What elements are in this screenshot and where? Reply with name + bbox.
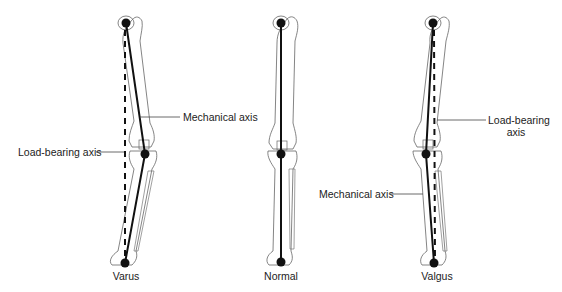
valgus-mechanical-axis-label: Mechanical axis [319, 188, 394, 200]
varus-ankle-center [121, 259, 130, 268]
normal-caption: Normal [261, 270, 301, 282]
normal-ankle-center [277, 258, 286, 267]
varus-caption: Varus [108, 270, 144, 282]
varus-mechanical-axis-label: Mechanical axis [183, 111, 258, 123]
normal-knee-center [277, 150, 286, 159]
normal-leg [267, 16, 298, 267]
valgus-load-bearing-axis [434, 30, 435, 262]
valgus-knee-center [422, 150, 431, 159]
varus-knee-center [141, 150, 150, 159]
valgus-hip-center [429, 19, 438, 28]
varus-leg [96, 16, 180, 268]
valgus-load-bearing-axis-label: Load-bearing axis [488, 114, 544, 138]
normal-hip-center [277, 19, 286, 28]
valgus-ankle-center [430, 259, 439, 268]
valgus-load-bearing-axis-label-line2: axis [488, 126, 544, 138]
valgus-caption: Valgus [417, 270, 457, 282]
varus-load-bearing-axis-label: Load-bearing axis [18, 146, 101, 158]
varus-hip-center [122, 19, 131, 28]
valgus-load-bearing-axis-label-line1: Load-bearing [488, 114, 544, 126]
valgus-leg [390, 16, 486, 268]
